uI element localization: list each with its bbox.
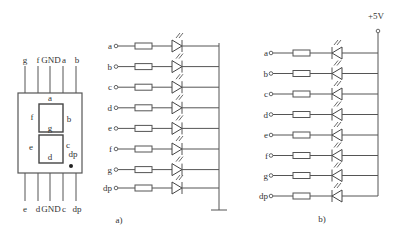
input-label: f: [109, 144, 112, 154]
segment-label-dp: dp: [69, 149, 79, 159]
circuit-b: +5V a b c d: [259, 11, 385, 224]
segment-label-g: g: [48, 123, 53, 133]
circuit-b-row: c: [264, 81, 378, 100]
supply-terminal: [376, 29, 380, 33]
segment-label-f: f: [31, 112, 34, 122]
input-label: g: [108, 165, 113, 175]
segment-label-e: e: [29, 142, 33, 152]
pin-label-bottom-5: dp: [73, 204, 83, 214]
input-label: d: [264, 110, 269, 120]
pin-label-top-4: a: [62, 55, 66, 65]
input-label: e: [264, 130, 268, 140]
input-label: c: [108, 82, 112, 92]
supply-label: +5V: [368, 11, 385, 21]
pin-label-bottom-2: d: [36, 204, 41, 214]
input-label: f: [265, 151, 268, 161]
pin-label-bottom-3: GND: [41, 204, 61, 214]
circuit-b-row: d: [264, 102, 379, 121]
input-label: d: [108, 103, 113, 113]
circuit-b-row: a: [264, 40, 378, 59]
caption-b: b): [318, 214, 326, 224]
circuit-a-row: g: [108, 157, 220, 176]
decimal-point-dot: [69, 164, 73, 168]
circuit-a: a b c d e: [103, 33, 227, 225]
circuit-b-row: dp: [259, 183, 378, 202]
input-label: c: [264, 89, 268, 99]
pin-label-top-2: f: [37, 55, 40, 65]
segment-label-a: a: [48, 93, 52, 103]
circuit-a-row: c: [108, 74, 219, 93]
input-label: dp: [103, 183, 113, 193]
circuit-a-row: dp: [103, 175, 219, 194]
pin-label-bottom-1: e: [23, 204, 27, 214]
circuit-b-row: e: [264, 122, 378, 141]
seven-segment-diagram: g f GND a b e d GND c dp a b c d e f g d…: [0, 0, 406, 240]
circuit-a-row: d: [108, 95, 220, 114]
circuit-a-row: f: [109, 136, 219, 155]
input-label: a: [108, 41, 112, 51]
input-label: b: [264, 69, 269, 79]
pin-label-top-1: g: [23, 55, 28, 65]
input-label: b: [108, 62, 113, 72]
seven-segment-package: g f GND a b e d GND c dp a b c d e f g d…: [18, 55, 82, 214]
input-label: e: [108, 123, 112, 133]
segment-label-d: d: [48, 152, 53, 162]
circuit-b-row: g: [264, 163, 379, 182]
pin-label-top-5: b: [75, 55, 80, 65]
circuit-b-row: f: [265, 143, 378, 162]
circuit-b-row: b: [264, 61, 379, 80]
input-label: a: [264, 48, 268, 58]
circuit-a-row: b: [108, 54, 220, 73]
circuit-a-row: a: [108, 33, 219, 52]
pin-label-bottom-4: c: [62, 204, 66, 214]
caption-a: a): [116, 215, 123, 225]
circuit-a-row: e: [108, 115, 219, 134]
pin-label-top-3: GND: [41, 55, 61, 65]
input-label: g: [264, 171, 269, 181]
input-label: dp: [259, 191, 269, 201]
segment-label-b: b: [67, 114, 72, 124]
